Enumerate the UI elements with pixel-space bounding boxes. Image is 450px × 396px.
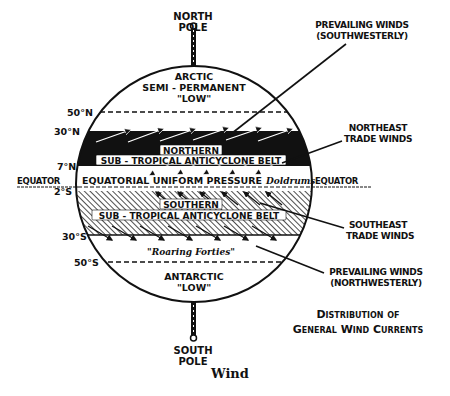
wind-distribution-diagram: NORTH POLE SOUTH POLE ARCTIC SEMI - PERM… bbox=[0, 0, 450, 396]
prevailing-sw-label-1: PREVAILING WINDS bbox=[315, 20, 408, 30]
lat-2s-label: 2°S bbox=[54, 186, 72, 197]
arctic-label-3: "LOW" bbox=[177, 93, 211, 104]
lat-30n-label: 30°N bbox=[54, 126, 80, 137]
ne-trade-label-1: NORTHEAST bbox=[349, 123, 409, 133]
roaring-forties-label: "Roaring Forties" bbox=[147, 247, 235, 257]
north-pole-label-1: NORTH bbox=[173, 11, 212, 22]
equator-right-label: EQUATOR bbox=[315, 176, 359, 186]
southern-belt-label-2: SUB - TROPICAL ANTICYCLONE BELT bbox=[99, 211, 280, 221]
northern-belt-label-1: NORTHERN bbox=[163, 146, 219, 156]
lat-30s-label: 30°S bbox=[62, 231, 87, 242]
figure-title-2: General Wind Currents bbox=[293, 323, 424, 336]
se-trade-label-1: SOUTHEAST bbox=[349, 220, 408, 230]
lat-50n-label: 50°N bbox=[67, 107, 93, 118]
lat-50s-label: 50°S bbox=[74, 257, 99, 268]
northern-belt-label-2: SUB - TROPICAL ANTICYCLONE BELT bbox=[101, 156, 282, 166]
south-pole-axis bbox=[191, 302, 197, 341]
south-pole-label-1: SOUTH bbox=[173, 345, 212, 356]
prevailing-nw-label-1: PREVAILING WINDS bbox=[329, 267, 422, 277]
figure-caption: Wind bbox=[210, 366, 249, 381]
arctic-label-2: SEMI - PERMANENT bbox=[142, 82, 246, 93]
equatorial-pressure-label: EQUATORIAL UNIFORM PRESSURE bbox=[82, 175, 262, 186]
antarctic-label-1: ANTARCTIC bbox=[164, 271, 224, 282]
north-pole-label-2: POLE bbox=[178, 22, 207, 33]
ne-trade-label-2: TRADE WINDS bbox=[344, 134, 412, 144]
antarctic-label-2: "LOW" bbox=[177, 282, 211, 293]
arctic-label-1: ARCTIC bbox=[175, 71, 214, 82]
southern-belt-label-1: SOUTHERN bbox=[163, 200, 219, 210]
prevailing-nw-label-2: (NORTHWESTERLY) bbox=[330, 278, 422, 288]
lat-7n-label: 7°N bbox=[57, 161, 76, 172]
south-pole-label-2: POLE bbox=[178, 356, 207, 367]
prevailing-sw-label-2: (SOUTHWESTERLY) bbox=[316, 31, 408, 41]
figure-title-1: Distribution of bbox=[316, 308, 399, 321]
equator-left-label: EQUATOR bbox=[17, 176, 61, 186]
doldrums-label: Doldrums bbox=[265, 176, 315, 186]
se-trade-label-2: TRADE WINDS bbox=[346, 231, 414, 241]
